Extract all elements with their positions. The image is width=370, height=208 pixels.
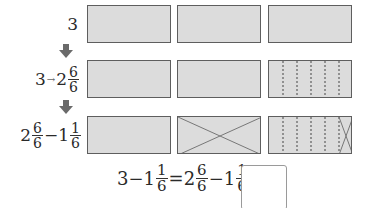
- dashed-dividers-cross-icon: [269, 117, 352, 154]
- row3-whole2: 1: [58, 125, 69, 145]
- denominator: 6: [33, 136, 42, 150]
- eq-fraction: 6 6: [196, 163, 208, 194]
- row2-arrow: →: [47, 74, 55, 85]
- numerator: 6: [68, 65, 79, 80]
- equals-sign: =: [169, 168, 184, 189]
- answer-input-box[interactable]: [241, 165, 287, 208]
- row3-mixed-whole: 2: [20, 125, 31, 145]
- row2-fraction: 6 6: [68, 65, 79, 94]
- minus-sign: −: [209, 168, 224, 189]
- cross-out-icon: [178, 117, 261, 154]
- row2-mixed-whole: 2: [56, 69, 67, 89]
- denominator: 6: [197, 179, 207, 194]
- row1-box2: [177, 5, 261, 43]
- denominator: 6: [157, 179, 167, 194]
- row2-label: 3 → 2 6 6: [0, 62, 80, 96]
- row1-box1: [87, 5, 171, 43]
- eq-whole: 1: [144, 168, 155, 189]
- row2-box2: [177, 60, 261, 98]
- row2-box1: [87, 60, 171, 98]
- down-arrow-icon: [59, 100, 73, 114]
- row3-box1: [87, 116, 171, 154]
- row2-whole: 3: [35, 69, 46, 89]
- dashed-dividers-icon: [269, 61, 352, 98]
- eq-fraction: 1 6: [156, 163, 168, 194]
- row1-label: 3: [40, 10, 78, 38]
- numerator: 6: [32, 121, 43, 136]
- row3-box2-crossed: [177, 116, 261, 154]
- eq-whole: 3: [117, 168, 128, 189]
- minus-sign: −: [44, 125, 58, 145]
- row3-box3-divided-sixths: [268, 116, 352, 154]
- row1-whole: 3: [67, 14, 78, 34]
- numerator: 1: [70, 121, 81, 136]
- row2-box3-divided-sixths: [268, 60, 352, 98]
- minus-sign: −: [128, 168, 143, 189]
- row1-box3: [268, 5, 352, 43]
- row3-label: 2 6 6 − 1 1 6: [0, 117, 82, 153]
- denominator: 6: [69, 80, 78, 94]
- down-arrow-icon: [59, 44, 73, 58]
- row3-fraction2: 1 6: [70, 121, 81, 150]
- row3-fraction1: 6 6: [32, 121, 43, 150]
- denominator: 6: [71, 136, 80, 150]
- eq-whole: 1: [224, 168, 235, 189]
- eq-whole: 2: [184, 168, 195, 189]
